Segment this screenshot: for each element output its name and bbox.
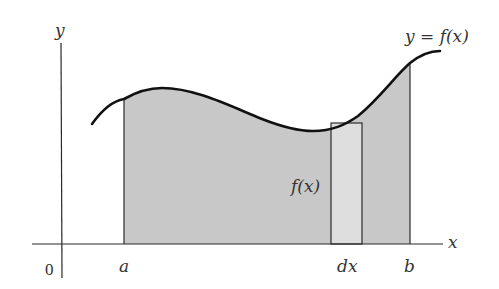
curve-equation-label: y = f(x) [404, 26, 469, 46]
y-axis [61, 43, 62, 278]
y-axis-label: y [54, 20, 65, 40]
dx-strip [331, 123, 362, 244]
origin-label: 0 [45, 260, 54, 279]
integral-area-diagram: y x 0 a b dx f(x) y = f(x) [0, 0, 499, 289]
dx-label: dx [337, 256, 358, 276]
lower-bound-label: a [119, 256, 129, 276]
x-axis-label: x [448, 232, 458, 252]
fx-strip-height-label: f(x) [289, 176, 320, 196]
upper-bound-label: b [404, 256, 415, 276]
area-under-curve [124, 63, 410, 244]
